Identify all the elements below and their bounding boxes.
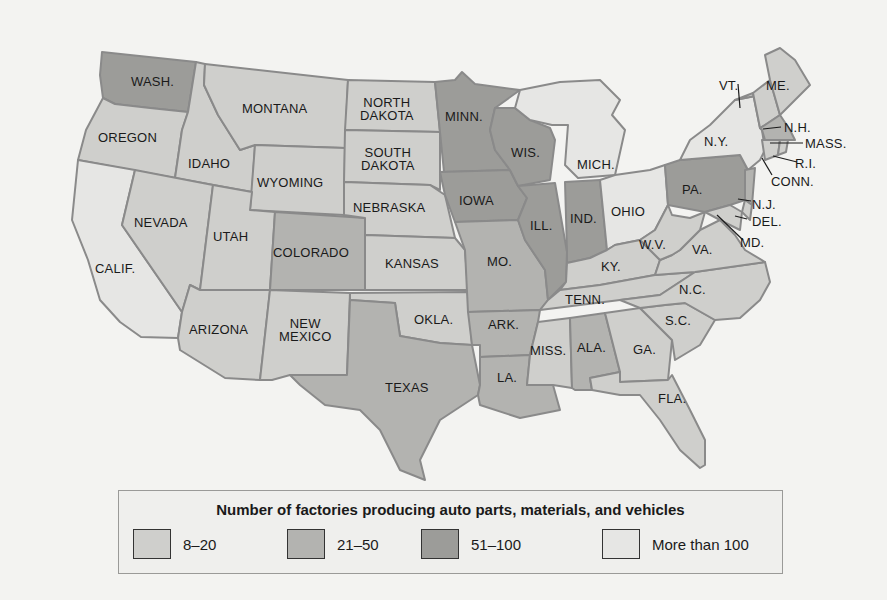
label-ark: ARK. <box>488 318 519 331</box>
label-nebraska: NEBRASKA <box>353 201 425 214</box>
label-wis: WIS. <box>511 146 540 159</box>
legend-swatch <box>133 529 171 559</box>
label-fla: FLA. <box>658 392 686 405</box>
legend-item-more-than-100: More than 100 <box>602 529 749 559</box>
label-nj: N.J. <box>752 198 776 211</box>
label-colorado: COLORADO <box>273 246 349 259</box>
label-kansas: KANSAS <box>385 257 439 270</box>
label-mass: MASS. <box>805 137 846 150</box>
label-conn: CONN. <box>771 175 814 188</box>
label-wash: WASH. <box>131 75 174 88</box>
label-va: VA. <box>692 243 713 256</box>
legend-label: More than 100 <box>652 536 749 553</box>
label-new-mexico: NEW MEXICO <box>279 317 331 343</box>
legend: Number of factories producing auto parts… <box>118 490 783 574</box>
state-delaware <box>742 200 752 220</box>
label-la: LA. <box>497 371 517 384</box>
label-miss: MISS. <box>530 344 566 357</box>
label-mo: MO. <box>487 255 512 268</box>
label-ri: R.I. <box>795 157 816 170</box>
state-rhode-island <box>778 140 788 155</box>
label-ill: ILL. <box>530 219 552 232</box>
label-south-dakota: SOUTH DAKOTA <box>361 146 415 172</box>
label-wv: W.V. <box>639 238 666 251</box>
legend-title: Number of factories producing auto parts… <box>119 501 782 518</box>
legend-label: 8–20 <box>183 536 216 553</box>
state-florida <box>590 372 705 468</box>
legend-item-21-50: 21–50 <box>287 529 379 559</box>
legend-item-51-100: 51–100 <box>421 529 521 559</box>
state-pennsylvania <box>665 155 748 212</box>
label-ny: N.Y. <box>704 135 728 148</box>
label-wyoming: WYOMING <box>257 176 323 189</box>
label-nh: N.H. <box>784 121 811 134</box>
label-nc: N.C. <box>679 283 706 296</box>
label-sc: S.C. <box>665 314 691 327</box>
label-del: DEL. <box>752 215 782 228</box>
label-texas: TEXAS <box>385 381 429 394</box>
legend-label: 51–100 <box>471 536 521 553</box>
label-okla: OKLA. <box>414 313 453 326</box>
label-iowa: IOWA <box>459 194 494 207</box>
label-ala: ALA. <box>577 341 606 354</box>
label-nevada: NEVADA <box>134 216 188 229</box>
legend-item-8-20: 8–20 <box>133 529 216 559</box>
label-north-dakota: NORTH DAKOTA <box>360 96 414 122</box>
label-montana: MONTANA <box>242 102 307 115</box>
label-pa: PA. <box>682 183 703 196</box>
label-tenn: TENN. <box>565 293 605 306</box>
legend-swatch <box>421 529 459 559</box>
label-calif: CALIF. <box>95 262 135 275</box>
label-utah: UTAH <box>213 230 248 243</box>
legend-label: 21–50 <box>337 536 379 553</box>
label-oregon: OREGON <box>98 131 157 144</box>
label-minn: MINN. <box>445 110 483 123</box>
label-ky: KY. <box>601 260 621 273</box>
label-vt: VT. <box>719 79 738 92</box>
label-md: MD. <box>740 236 764 249</box>
label-arizona: ARIZONA <box>189 323 248 336</box>
label-idaho: IDAHO <box>188 157 230 170</box>
label-ind: IND. <box>570 212 597 225</box>
label-ga: GA. <box>633 343 656 356</box>
legend-swatch <box>287 529 325 559</box>
label-mich: MICH. <box>577 158 615 171</box>
label-me: ME. <box>766 79 790 92</box>
label-ohio: OHIO <box>611 205 645 218</box>
legend-swatch <box>602 529 640 559</box>
